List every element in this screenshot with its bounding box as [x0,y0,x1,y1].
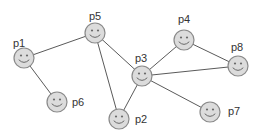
node-label: p1 [13,37,25,49]
network-diagram: p1p5p6p2p3p4p8p7 [0,0,262,140]
smiley-face-icon [200,102,220,122]
edge-p3-p8 [142,66,238,76]
node-p4: p4 [174,13,194,50]
node-p1: p1 [13,37,34,68]
node-label: p5 [89,10,101,22]
node-label: p4 [178,13,190,25]
edge-p1-p5 [24,33,95,58]
node-p2: p2 [109,109,147,129]
node-p7: p7 [200,102,240,122]
node-p5: p5 [85,10,105,43]
node-label: p8 [231,41,243,53]
smiley-face-icon [14,48,34,68]
edge-p5-p2 [95,33,119,119]
node-label: p7 [228,105,240,117]
smiley-face-icon [174,30,194,50]
smiley-face-icon [132,66,152,86]
node-p6: p6 [47,92,84,112]
smiley-face-icon [85,23,105,43]
node-label: p6 [72,96,84,108]
edge-p3-p7 [142,76,210,112]
smiley-face-icon [228,56,248,76]
node-label: p3 [135,52,147,64]
smiley-face-icon [47,92,67,112]
node-p3: p3 [132,52,152,86]
node-p8: p8 [228,41,248,76]
nodes-layer: p1p5p6p2p3p4p8p7 [13,10,248,129]
smiley-face-icon [109,109,129,129]
node-label: p2 [135,113,147,125]
